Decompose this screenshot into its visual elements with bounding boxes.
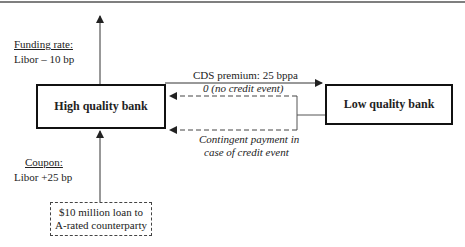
funding-rate-title: Funding rate: [14,38,73,51]
loan-box: $10 million loan to A-rated counterparty [50,202,152,236]
funding-rate-value: Libor – 10 bp [14,53,74,66]
no-credit-event-label: 0 (no credit event) [203,82,284,95]
low-quality-bank-label: Low quality bank [344,97,435,112]
coupon-title: Coupon: [25,156,63,169]
coupon-value: Libor +25 bp [14,171,72,184]
loan-line2: A-rated counterparty [55,219,147,232]
loan-line1: $10 million loan to [59,206,143,219]
contingent-payment-line2: case of credit event [204,146,289,159]
low-quality-bank-box: Low quality bank [325,84,453,125]
cds-premium-label: CDS premium: 25 bppa [193,69,298,82]
contingent-payment-line1: Contingent payment in [199,133,299,146]
high-quality-bank-label: High quality bank [54,99,147,114]
high-quality-bank-box: High quality bank [36,84,166,129]
